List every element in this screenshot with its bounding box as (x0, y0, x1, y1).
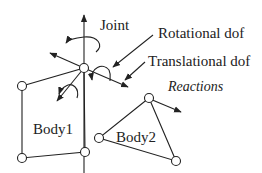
multibody-diagram: Joint Rotational dof Translational dof R… (0, 0, 262, 173)
body1-node-bottom-right (81, 148, 90, 157)
right-axis-arrow (84, 68, 128, 87)
body2-node-left (95, 134, 104, 143)
joint-label: Joint (100, 17, 130, 33)
body1-node-top-left (18, 82, 27, 91)
rotation-arc-right (92, 66, 110, 81)
joint-node (80, 64, 89, 73)
body2-node-top (145, 94, 154, 103)
body1-node-bottom-left (18, 154, 27, 163)
reactions-label: Reactions (167, 79, 224, 94)
left-axis-arrow (50, 53, 84, 68)
rotation-arc-vertical (66, 37, 100, 52)
translational-dof-label: Translational dof (148, 53, 250, 69)
body2-label: Body2 (116, 129, 156, 145)
rotational-dof-pointer-arrow (113, 35, 153, 67)
translational-dof-pointer-arrow (125, 62, 145, 80)
body1-label: Body1 (33, 121, 73, 137)
body2-node-bottom (172, 157, 181, 166)
rotational-dof-label: Rotational dof (158, 25, 244, 41)
body1-shape (22, 68, 85, 158)
